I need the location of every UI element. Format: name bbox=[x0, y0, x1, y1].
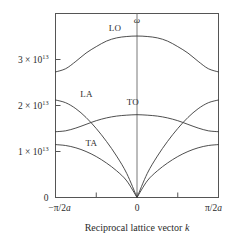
dispersion-plot-svg: 1 × 10132 × 10133 × 10130ωLOTOLATA−π/2a0… bbox=[0, 0, 240, 243]
branch-label-to: TO bbox=[127, 97, 140, 107]
x-axis-tick-label-left: −π/2a bbox=[48, 203, 71, 213]
branch-label-la: LA bbox=[80, 89, 93, 99]
branch-label-ta: TA bbox=[85, 138, 97, 148]
branch-label-lo: LO bbox=[109, 23, 122, 33]
phonon-dispersion-figure: 1 × 10132 × 10133 × 10130ωLOTOLATA−π/2a0… bbox=[0, 0, 240, 243]
y-axis-tick-label: 1 × 1013 bbox=[18, 145, 49, 157]
x-axis-tick-label-center: 0 bbox=[135, 203, 140, 213]
y-axis-zero-label: 0 bbox=[44, 193, 49, 203]
x-axis-tick-label-right: π/2a bbox=[205, 203, 222, 213]
omega-axis-label: ω bbox=[134, 15, 140, 25]
y-axis-tick-label: 2 × 1013 bbox=[18, 99, 49, 111]
y-axis-tick-label: 3 × 1013 bbox=[18, 53, 49, 65]
x-axis-title: Reciprocal lattice vector k bbox=[85, 222, 190, 233]
